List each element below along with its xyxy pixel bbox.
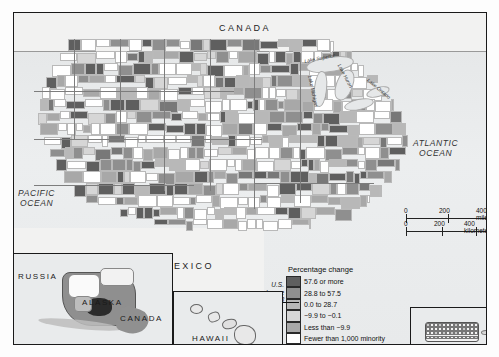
county-patch bbox=[274, 159, 291, 171]
county-patch bbox=[246, 207, 257, 215]
county-patch bbox=[288, 207, 301, 219]
county-patch bbox=[227, 159, 235, 167]
county-patch bbox=[105, 75, 116, 83]
county-patch bbox=[277, 75, 293, 87]
county-patch bbox=[212, 195, 220, 207]
county-patch bbox=[81, 39, 96, 51]
county-patch bbox=[239, 183, 248, 191]
county-patch bbox=[154, 219, 168, 225]
county-patch bbox=[40, 123, 58, 135]
county-patch bbox=[230, 99, 247, 111]
hawaii-island-oahu bbox=[207, 310, 222, 324]
county-patch bbox=[166, 125, 184, 133]
county-patch bbox=[358, 161, 365, 169]
county-patch bbox=[271, 65, 290, 73]
county-patch bbox=[306, 147, 325, 159]
legend-label: 57.6 or more bbox=[304, 278, 344, 285]
county-patch bbox=[60, 111, 70, 119]
county-patch bbox=[281, 195, 294, 203]
county-patch bbox=[279, 183, 296, 195]
county-patch bbox=[160, 207, 177, 215]
county-patch bbox=[255, 111, 269, 123]
county-patch bbox=[352, 89, 363, 97]
hawaii-inset: HAWAII bbox=[173, 291, 283, 345]
county-patch bbox=[187, 75, 197, 83]
county-patch bbox=[152, 111, 171, 119]
county-patch bbox=[238, 123, 253, 135]
county-patch bbox=[260, 41, 278, 49]
county-patch bbox=[123, 147, 133, 159]
alaska-inset-label-alaska: ALASKA bbox=[82, 298, 123, 307]
county-patch bbox=[190, 99, 205, 107]
county-patch bbox=[125, 99, 140, 111]
county-patch bbox=[85, 99, 103, 107]
county-patch bbox=[184, 123, 196, 135]
hawaii-island-kauai bbox=[190, 304, 203, 314]
county-patch bbox=[101, 171, 117, 183]
scale-tick bbox=[442, 227, 443, 236]
county-patch bbox=[312, 123, 321, 135]
county-patch bbox=[387, 137, 402, 145]
county-patch bbox=[85, 63, 96, 75]
county-patch bbox=[168, 77, 187, 85]
legend-row: Not comparable bbox=[286, 344, 404, 345]
county-patch bbox=[380, 147, 389, 159]
county-patch bbox=[363, 137, 380, 145]
county-patch bbox=[136, 87, 148, 99]
county-patch bbox=[289, 39, 302, 51]
county-patch bbox=[67, 161, 86, 169]
county-patch bbox=[360, 195, 367, 207]
county-patch bbox=[153, 147, 168, 159]
county-patch bbox=[133, 63, 151, 75]
county-patch bbox=[356, 111, 374, 123]
county-patch bbox=[395, 159, 400, 171]
pacific-ocean-line1: PACIFIC bbox=[18, 188, 55, 198]
atlantic-ocean-line1: ATLANTIC bbox=[413, 138, 458, 148]
county-patch bbox=[192, 63, 200, 71]
legend-row: Less than −9.9 bbox=[286, 322, 404, 333]
county-patch bbox=[346, 171, 354, 183]
county-patch bbox=[320, 161, 329, 173]
county-patch bbox=[142, 39, 152, 47]
county-patch bbox=[365, 159, 377, 171]
scale-label-miles-max: 400 miles bbox=[476, 207, 487, 221]
county-patch bbox=[294, 195, 311, 207]
county-patch bbox=[127, 53, 138, 61]
legend-swatch bbox=[286, 276, 301, 287]
county-patch bbox=[248, 183, 267, 191]
county-patch bbox=[191, 135, 205, 147]
county-patch bbox=[380, 185, 382, 197]
county-patch bbox=[301, 159, 308, 167]
county-patch bbox=[200, 63, 207, 75]
county-patch bbox=[227, 39, 242, 47]
county-patch bbox=[100, 87, 117, 99]
county-patch bbox=[120, 209, 128, 217]
scale-label-miles-0: 0 bbox=[404, 207, 408, 214]
county-patch bbox=[260, 195, 267, 203]
county-patch bbox=[128, 207, 136, 215]
county-patch bbox=[103, 99, 110, 111]
county-patch bbox=[54, 99, 66, 107]
county-patch bbox=[335, 209, 352, 221]
legend-label: Fewer than 1,000 minority bbox=[304, 335, 385, 342]
county-patch bbox=[207, 51, 216, 59]
county-patch bbox=[269, 87, 276, 99]
county-patch bbox=[329, 125, 348, 133]
county-patch bbox=[262, 87, 269, 99]
county-patch bbox=[100, 159, 112, 171]
county-patch bbox=[177, 207, 184, 219]
county-patch bbox=[346, 159, 358, 167]
county-patch bbox=[207, 113, 220, 121]
county-patch bbox=[127, 111, 136, 119]
county-patch bbox=[76, 123, 83, 131]
county-patch bbox=[203, 39, 210, 51]
county-patch bbox=[176, 63, 192, 75]
county-patch bbox=[278, 39, 289, 47]
pacific-ocean-line2: OCEAN bbox=[20, 198, 53, 208]
county-patch bbox=[238, 221, 247, 231]
state-boundary bbox=[120, 39, 121, 139]
county-patch bbox=[65, 75, 78, 87]
county-patch bbox=[267, 123, 282, 131]
county-patch bbox=[262, 135, 269, 143]
county-patch bbox=[236, 135, 250, 147]
